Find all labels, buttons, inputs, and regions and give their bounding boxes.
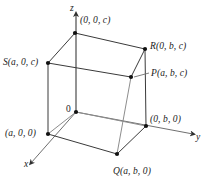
coordinate-box-figure: (0, 0, c) R(0, b, c) S(a, 0, c) P(a, b, …: [0, 0, 211, 183]
vertex-dot-origin: [74, 110, 78, 114]
vertex-dot-top-back: [73, 31, 77, 35]
vertex-dot-Q: [115, 152, 119, 156]
label-point-y-intercept: (0, b, 0): [150, 115, 181, 125]
vertex-dot-x-intercept: [46, 132, 50, 136]
label-point-top-back: (0, 0, c): [80, 16, 110, 26]
label-point-Q: Q(a, b, 0): [113, 167, 151, 177]
vertex-dot-y-intercept: [144, 124, 148, 128]
leader-line-P: [134, 73, 149, 77]
figure-canvas: [0, 0, 211, 183]
edge-Q-to-xint: [48, 134, 117, 154]
axis-label-x: x: [24, 160, 28, 170]
box-top-face-edges: [48, 33, 145, 77]
label-point-P: P(a, b, c): [151, 69, 187, 79]
label-point-origin: 0: [66, 105, 71, 115]
edge-origin-to-yint: [76, 112, 146, 126]
axis-label-z: z: [70, 4, 74, 14]
vertex-dot-S: [46, 61, 50, 65]
edge-P-to-S: [48, 63, 131, 77]
edge-S-to-topback: [48, 33, 75, 63]
edge-xint-to-origin: [48, 112, 76, 134]
axis-x: [31, 112, 76, 163]
edge-topback-to-R: [75, 33, 145, 49]
label-point-S: S(a, 0, c): [3, 58, 38, 68]
label-point-x-intercept: (a, 0, 0): [5, 129, 36, 139]
edge-R-to-P: [131, 49, 145, 77]
box-bottom-face-edges: [48, 112, 146, 154]
vertex-dot-P: [129, 75, 133, 79]
axis-label-y: y: [196, 133, 200, 143]
vertex-dot-R: [143, 47, 147, 51]
axis-x-line: [31, 112, 76, 163]
edge-R-to-yint: [145, 49, 146, 126]
label-point-R: R(0, b, c): [150, 42, 186, 52]
